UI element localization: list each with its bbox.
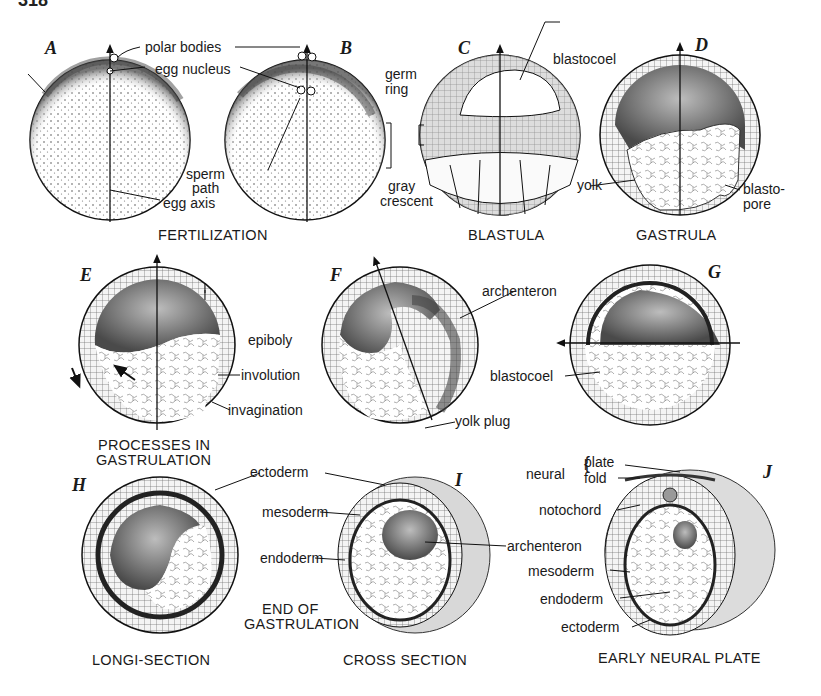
panel-letter-c: C	[458, 38, 470, 59]
label-fold: fold	[584, 471, 607, 486]
panel-j-neural-plate	[605, 470, 775, 635]
label-archenteron-f: archenteron	[482, 284, 557, 299]
label-egg-nucleus: egg nucleus	[155, 62, 231, 77]
label-involution: involution	[241, 368, 300, 383]
label-endoderm-h: endoderm	[260, 551, 323, 566]
panel-letter-i: I	[455, 470, 462, 491]
label-epiboly: epiboly	[248, 333, 292, 348]
panel-letter-f: F	[330, 265, 342, 286]
label-crescent: crescent	[380, 194, 433, 209]
caption-processes-line1: PROCESSES IN	[98, 437, 210, 453]
panel-letter-h: H	[72, 475, 86, 496]
panel-e-gastrulation	[72, 258, 235, 430]
label-mesoderm-j: mesoderm	[528, 564, 594, 579]
caption-processes-line2: GASTRULATION	[96, 452, 211, 468]
page-number: 318	[18, 0, 48, 11]
label-mesoderm-h: mesoderm	[262, 505, 328, 520]
label-neural: neural	[526, 467, 565, 482]
label-invagination: invagination	[228, 403, 303, 418]
label-gray: gray	[388, 179, 415, 194]
label-endoderm-j: endoderm	[540, 592, 603, 607]
panel-letter-e: E	[80, 265, 92, 286]
caption-blastula: BLASTULA	[468, 227, 545, 243]
label-path: path	[192, 181, 219, 196]
caption-end-of-line2: GASTRULATION	[244, 616, 359, 632]
label-germ: germ	[385, 67, 417, 82]
panel-letter-a: A	[45, 38, 57, 59]
label-yolk: yolk	[577, 178, 602, 193]
caption-fertilization: FERTILIZATION	[158, 227, 268, 243]
panel-f-gastrulation	[322, 260, 478, 423]
panel-c-blastula	[419, 48, 580, 215]
caption-early-neural-plate: EARLY NEURAL PLATE	[598, 650, 761, 666]
label-yolk-plug: yolk plug	[455, 414, 510, 429]
label-pore: pore	[743, 197, 771, 212]
label-blasto: blasto-	[743, 182, 785, 197]
label-plate: plate	[584, 455, 614, 470]
caption-end-of-line1: END OF	[262, 601, 319, 617]
label-polar-bodies: polar bodies	[145, 40, 221, 55]
panel-letter-g: G	[708, 262, 721, 283]
embryo-illustrations	[0, 0, 821, 696]
label-archenteron-i: archenteron	[507, 539, 582, 554]
label-ectoderm-j: ectoderm	[561, 620, 619, 635]
label-blastocoel-g: blastocoel	[490, 369, 553, 384]
label-notochord: notochord	[539, 503, 601, 518]
caption-cross-section: CROSS SECTION	[343, 652, 467, 668]
panel-i-cross-section	[338, 477, 490, 633]
panel-b-egg	[225, 48, 391, 222]
label-ring: ring	[385, 82, 408, 97]
panel-d-gastrula	[600, 46, 760, 215]
caption-longi-section: LONGI-SECTION	[92, 652, 210, 668]
label-blastocoel-c: blastocoel	[553, 52, 616, 67]
panel-g-gastrulation	[560, 265, 740, 425]
label-ectoderm-h: ectoderm	[250, 465, 308, 480]
label-egg-axis: egg axis	[163, 196, 215, 211]
panel-letter-b: B	[340, 38, 352, 59]
panel-letter-j: J	[763, 462, 772, 483]
panel-letter-d: D	[695, 35, 708, 56]
panel-h-longi-section	[82, 477, 238, 633]
caption-gastrula: GASTRULA	[636, 227, 717, 243]
